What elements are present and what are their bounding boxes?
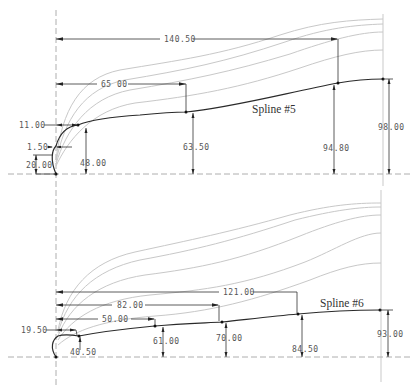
spline-6-label: Spline #6 [320, 297, 364, 310]
dim-140-50: 140.50 [56, 35, 338, 82]
dim-48-00: 48.00 [80, 128, 107, 174]
svg-text:40.50: 40.50 [70, 348, 97, 357]
svg-text:20.00: 20.00 [26, 161, 53, 170]
spline-drawing: Spline #5 140.50 65 00 [0, 0, 417, 392]
dim-63-50: 63.50 [183, 113, 210, 174]
svg-text:121.00: 121.00 [223, 288, 255, 297]
upper-section: Spline #5 140.50 65 00 [8, 10, 410, 190]
svg-text:140.50: 140.50 [164, 35, 196, 44]
svg-text:70.00: 70.00 [216, 334, 243, 343]
svg-text:11.00: 11.00 [19, 121, 46, 130]
svg-text:84.50: 84.50 [292, 345, 319, 354]
dim-40-50: 40.50 [70, 337, 97, 357]
spline-5-label: Spline #5 [252, 103, 296, 116]
svg-text:63.50: 63.50 [183, 143, 210, 152]
dim-70-00: 70.00 [216, 323, 243, 357]
svg-text:65 00: 65 00 [101, 80, 128, 89]
dim-50-00: 50.00 [56, 315, 155, 325]
dim-84-50: 84.50 [292, 315, 319, 357]
dim-61-00: 61.00 [153, 327, 180, 357]
svg-text:82.00: 82.00 [117, 301, 144, 310]
dim-121-00: 121.00 [56, 288, 297, 313]
svg-text:1.50: 1.50 [27, 143, 48, 152]
svg-text:61.00: 61.00 [153, 337, 180, 346]
svg-text:48.00: 48.00 [80, 159, 107, 168]
svg-text:93.00: 93.00 [377, 330, 404, 339]
svg-text:94.80: 94.80 [323, 144, 350, 153]
dim-1-50: 1.50 [27, 143, 72, 152]
lower-section: Spline #6 121.00 82.00 [8, 190, 410, 385]
svg-text:50.00: 50.00 [102, 315, 129, 324]
dim-94-80: 94.80 [323, 85, 350, 174]
svg-text:19.50: 19.50 [21, 326, 48, 335]
dim-20-00: 20.00 [26, 155, 56, 174]
svg-text:98.00: 98.00 [378, 123, 405, 132]
dim-98-00: 98.00 [378, 79, 405, 174]
